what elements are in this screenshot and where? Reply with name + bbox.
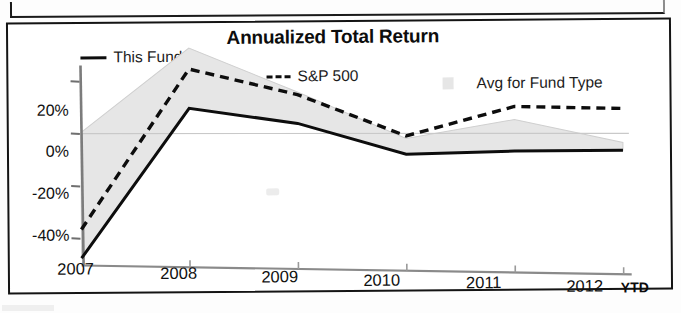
- y-axis-ticks: [71, 81, 81, 239]
- y-axis-line: [80, 65, 83, 265]
- x-tick-label-2011: 2011: [454, 273, 514, 293]
- x-tick-label-2008: 2008: [149, 264, 209, 284]
- x-tick-label-2007: 2007: [46, 259, 106, 279]
- adjacent-panel-bottom-edge: [10, 0, 665, 18]
- y-tick-label-20: 20%: [7, 102, 69, 120]
- y-tick-label-0: 0%: [7, 143, 69, 161]
- scanned-chart-page: Annualized Total Return This Fund S&P 50…: [0, 0, 681, 313]
- x-axis-ytd-label: YTD: [621, 279, 649, 295]
- x-tick-label-2009: 2009: [250, 267, 310, 287]
- y-tick-label-minus20: -20%: [7, 185, 69, 203]
- scan-artifact-speck: [266, 188, 279, 195]
- x-tick-label-2012: 2012: [555, 276, 615, 296]
- chart-plot-svg: [8, 20, 675, 296]
- y-tick-label-minus40: -40%: [7, 227, 69, 245]
- chart-panel: Annualized Total Return This Fund S&P 50…: [6, 17, 673, 294]
- scan-edge-smudge: [2, 305, 54, 311]
- x-tick-label-2010: 2010: [352, 270, 412, 290]
- plot-area: 20% 0% -20% -40% 2007 2008 2009 2010 201…: [8, 20, 675, 296]
